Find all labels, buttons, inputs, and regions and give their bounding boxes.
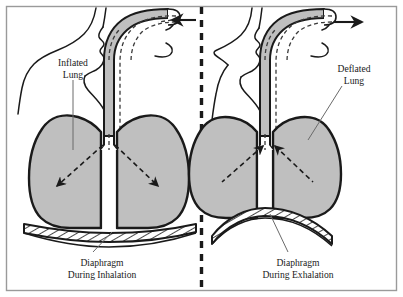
label-deflated-lung-line1: Deflated: [337, 63, 370, 74]
label-inflated-lung-line2: Lung: [63, 69, 83, 80]
lung-left-deflated: [189, 117, 257, 218]
lung-right-inflated: [117, 116, 189, 229]
mediastinum-left: [101, 140, 117, 228]
label-diaphragm-exhalation-line2: During Exhalation: [262, 269, 333, 280]
label-deflated-lung-line2: Lung: [344, 75, 364, 86]
respiration-diagram: Inflated Lung Diaphragm During Inhalatio…: [0, 0, 403, 297]
label-diaphragm-exhalation-line1: Diaphragm: [276, 257, 320, 268]
label-inflated-lung-line1: Inflated: [58, 57, 88, 68]
label-diaphragm-inhalation-line1: Diaphragm: [80, 257, 124, 268]
lung-left-inflated: [29, 116, 101, 229]
lung-right-deflated: [273, 117, 341, 218]
label-diaphragm-inhalation-line2: During Inhalation: [68, 269, 137, 280]
mediastinum-right: [257, 140, 273, 218]
